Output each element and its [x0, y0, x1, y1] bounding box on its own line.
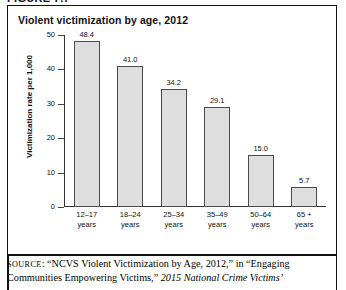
bar-slot: 15.0 — [239, 35, 283, 207]
x-category-line2: years — [239, 220, 283, 230]
y-tick: 20 — [58, 138, 64, 139]
x-category-line1: 35–49 — [196, 210, 240, 220]
x-category-line2: years — [109, 220, 153, 230]
bar-slot: 41.0 — [109, 35, 153, 207]
bar-slot: 34.2 — [152, 35, 196, 207]
x-category-label: 35–49years — [196, 210, 240, 229]
bar — [117, 66, 143, 207]
x-category-label: 18–24years — [109, 210, 153, 229]
bar — [248, 155, 274, 207]
y-tick-label: 50 — [47, 30, 55, 39]
source-line2-italic: 2015 National Crime Victims’ — [161, 272, 283, 283]
y-tick-label: 40 — [47, 64, 55, 73]
bar-slot: 48.4 — [65, 35, 109, 207]
x-category-line2: years — [152, 220, 196, 230]
bar-slot: 5.7 — [283, 35, 327, 207]
y-tick: 0 — [58, 207, 64, 208]
bar-value-label: 15.0 — [253, 144, 268, 153]
y-axis-label: Victimization rate per 1,000 — [25, 37, 34, 177]
y-tick-label: 0 — [51, 202, 55, 211]
y-tick: 50 — [58, 35, 64, 36]
x-category-line2: years — [283, 220, 327, 230]
x-category-label: 25–34years — [152, 210, 196, 229]
x-axis-category-labels: 12–17years18–24years25–34years35–49years… — [65, 210, 326, 240]
x-category-line1: 18–24 — [109, 210, 153, 220]
y-tick-label: 30 — [47, 99, 55, 108]
figure-page: FIGURE 7.7 Violent victimization by age,… — [0, 0, 346, 290]
x-category-label: 12–17years — [65, 210, 109, 229]
bar — [291, 187, 317, 207]
source-prefix: SOURCE — [7, 260, 42, 269]
bar-value-label: 29.1 — [210, 96, 225, 105]
bar-value-label: 48.4 — [79, 30, 94, 39]
x-category-line1: 65 + — [283, 210, 327, 220]
x-category-line2: years — [65, 220, 109, 230]
x-category-line1: 12–17 — [65, 210, 109, 220]
figure-number-label: FIGURE 7.7 — [7, 0, 70, 4]
chart-plot-area: Victimization rate per 1,000 01020304050… — [8, 6, 338, 256]
bar — [161, 89, 187, 207]
bar-value-label: 41.0 — [123, 55, 138, 64]
y-tick-label: 20 — [47, 133, 55, 142]
bar-slot: 29.1 — [196, 35, 240, 207]
source-line2-plain: Communities Empowering Victims,” — [7, 272, 161, 283]
x-category-label: 65 +years — [283, 210, 327, 229]
bar-series: 48.441.034.229.115.05.7 — [65, 35, 326, 207]
y-tick: 30 — [58, 104, 64, 105]
bar-value-label: 5.7 — [299, 176, 309, 185]
bar — [74, 41, 100, 207]
figure-frame: Violent victimization by age, 2012 Victi… — [7, 5, 337, 255]
x-category-line1: 50–64 — [239, 210, 283, 220]
source-note: SOURCE: “NCVS Violent Victimization by A… — [7, 258, 337, 284]
y-tick: 10 — [58, 173, 64, 174]
x-category-line2: years — [196, 220, 240, 230]
y-tick: 40 — [58, 69, 64, 70]
x-category-label: 50–64years — [239, 210, 283, 229]
source-line1: : “NCVS Violent Victimization by Age, 20… — [42, 258, 290, 269]
bar — [204, 107, 230, 207]
y-tick-label: 10 — [47, 168, 55, 177]
source-top-rule — [7, 255, 337, 256]
bar-value-label: 34.2 — [166, 78, 181, 87]
x-category-line1: 25–34 — [152, 210, 196, 220]
